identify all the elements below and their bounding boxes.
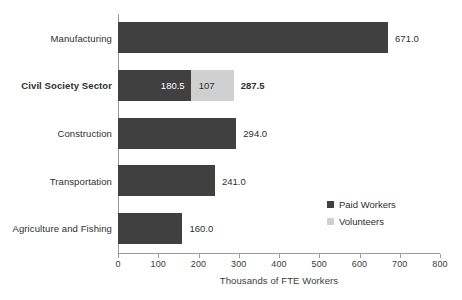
bar-total-value-label: 160.0 (189, 223, 213, 234)
bar-row: Construction294.0 (0, 118, 462, 149)
legend-swatch-icon-volunteers (327, 218, 334, 225)
bar-total-value-label: 671.0 (395, 32, 419, 43)
bar-row: Transportation241.0 (0, 165, 462, 196)
bar-segment-paid-workers[interactable] (118, 165, 215, 196)
x-tick-mark (239, 254, 240, 258)
legend-label-volunteers: Volunteers (339, 216, 384, 227)
x-tick-mark (118, 254, 119, 258)
x-tick-label: 400 (271, 259, 287, 269)
x-tick-label: 800 (432, 259, 448, 269)
segment-value-label-volunteers: 107 (199, 80, 215, 91)
x-tick-mark (199, 254, 200, 258)
legend-swatch-icon-paid-workers (327, 201, 334, 208)
bar-total-value-label: 241.0 (222, 175, 246, 186)
bar-segment-paid-workers[interactable] (118, 213, 182, 244)
bar-total-value-label: 294.0 (243, 128, 267, 139)
x-tick-label: 100 (150, 259, 166, 269)
x-tick-label: 300 (231, 259, 247, 269)
x-tick-mark (400, 254, 401, 258)
x-axis-title: Thousands of FTE Workers (118, 275, 440, 286)
category-label: Agriculture and Fishing (0, 223, 112, 234)
category-label: Transportation (0, 175, 112, 186)
bar-total-value-label: 287.5 (241, 80, 265, 91)
bar-segment-paid-workers[interactable] (118, 118, 236, 149)
legend-item-paid-workers: Paid Workers (327, 196, 396, 213)
bar-chart: 0100200300400500600700800 Thousands of F… (0, 0, 462, 300)
x-tick-mark (440, 254, 441, 258)
legend-item-volunteers: Volunteers (327, 213, 396, 230)
x-tick-mark (360, 254, 361, 258)
category-label: Manufacturing (0, 32, 112, 43)
x-tick-label: 600 (352, 259, 368, 269)
legend-label-paid-workers: Paid Workers (339, 199, 396, 210)
x-tick-mark (158, 254, 159, 258)
category-label: Construction (0, 128, 112, 139)
bar-segment-paid-workers[interactable] (118, 22, 388, 53)
bar-segment-volunteers[interactable]: 107 (191, 70, 234, 101)
x-tick-label: 200 (191, 259, 207, 269)
chart-legend: Paid Workers Volunteers (327, 196, 396, 230)
x-tick-label: 500 (311, 259, 327, 269)
x-tick-label: 700 (392, 259, 408, 269)
bar-row: Civil Society Sector180.5107287.5 (0, 70, 462, 101)
bar-segment-paid-workers[interactable]: 180.5 (118, 70, 191, 101)
segment-value-label-paid: 180.5 (161, 80, 185, 91)
bar-row: Manufacturing671.0 (0, 22, 462, 53)
x-tick-label: 0 (115, 259, 120, 269)
category-label: Civil Society Sector (0, 80, 112, 91)
x-tick-mark (319, 254, 320, 258)
x-tick-mark (279, 254, 280, 258)
